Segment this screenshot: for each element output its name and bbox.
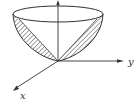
x-axis-label: x xyxy=(20,90,26,101)
y-axis-arrow-icon xyxy=(117,59,124,63)
y-axis-label: y xyxy=(127,56,134,67)
x-axis xyxy=(16,61,58,88)
diagram-canvas: y x xyxy=(0,0,138,103)
z-axis-arrow-icon xyxy=(56,0,59,5)
